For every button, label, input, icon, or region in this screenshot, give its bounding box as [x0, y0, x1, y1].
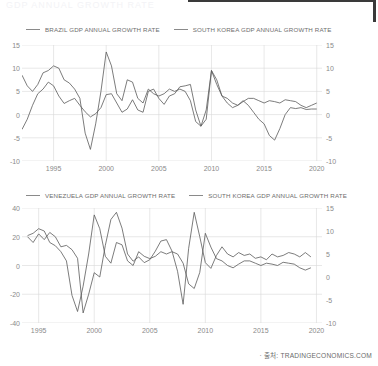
y-tick-label: 15	[326, 42, 334, 49]
y-tick-label: 15	[326, 205, 334, 212]
legend-line-swatch-icon	[174, 29, 188, 30]
x-tick-label: 2000	[98, 165, 114, 172]
legend-label: BRAZIL GDP ANNUAL GROWTH RATE	[45, 26, 160, 33]
y-tick-label: 10	[12, 65, 20, 72]
x-tick-label: 2005	[151, 165, 167, 172]
data-series-line-1	[22, 52, 317, 149]
x-tick-label: 2015	[256, 165, 272, 172]
legend-item-venezuela[interactable]: VENEZUELA GDP ANNUAL GROWTH RATE	[26, 192, 175, 199]
x-tick-label: 2020	[309, 165, 325, 172]
legend-label: SOUTH KOREA GDP ANNUAL GROWTH RATE	[193, 26, 332, 33]
chart-2-y-axis-left: 40200-20-40	[0, 208, 20, 323]
y-tick-label: -5	[326, 297, 332, 304]
legend-line-swatch-icon	[189, 195, 203, 196]
x-tick-label: 1995	[31, 327, 47, 334]
y-tick-label: 0	[326, 274, 330, 281]
legend-line-swatch-icon	[26, 195, 40, 196]
y-tick-label: 10	[326, 228, 334, 235]
x-tick-label: 2010	[204, 165, 220, 172]
chart-panel-venezuela-south-korea: VENEZUELA GDP ANNUAL GROWTH RATE SOUTH K…	[0, 188, 378, 348]
x-tick-label: 2000	[86, 327, 102, 334]
data-series-line-1	[28, 215, 311, 312]
legend-item-south-korea[interactable]: SOUTH KOREA GDP ANNUAL GROWTH RATE	[174, 26, 332, 33]
chart-panel-brazil-south-korea: BRAZIL GDP ANNUAL GROWTH RATE SOUTH KORE…	[0, 22, 378, 184]
y-tick-label: -10	[10, 158, 20, 165]
chart-1-x-axis: 199520002005201020152020	[22, 165, 322, 177]
legend-label: VENEZUELA GDP ANNUAL GROWTH RATE	[45, 192, 175, 199]
chart-1-legend: BRAZIL GDP ANNUAL GROWTH RATE SOUTH KORE…	[0, 22, 378, 36]
chart-1-y-axis-right: 151050-5-10	[326, 45, 350, 161]
legend-item-south-korea[interactable]: SOUTH KOREA GDP ANNUAL GROWTH RATE	[189, 192, 347, 199]
source-attribution: · 출처: TRADINGECONOMICS.COM	[0, 350, 378, 364]
y-tick-label: -10	[326, 158, 336, 165]
chart-2-legend: VENEZUELA GDP ANNUAL GROWTH RATE SOUTH K…	[0, 188, 378, 202]
chart-2-x-axis: 199520002005201020152020	[22, 327, 322, 339]
x-tick-label: 1995	[46, 165, 62, 172]
chart-1-y-axis-left: 151050-5-10	[0, 45, 20, 161]
y-tick-label: -5	[326, 134, 332, 141]
y-tick-label: -20	[10, 291, 20, 298]
cropped-window-frame	[188, 0, 376, 22]
x-tick-label: 2020	[309, 327, 325, 334]
data-series-line-0	[28, 212, 311, 313]
legend-line-swatch-icon	[26, 29, 40, 30]
y-tick-label: 20	[12, 233, 20, 240]
y-tick-label: 0	[16, 262, 20, 269]
y-tick-label: -40	[10, 320, 20, 327]
y-tick-label: -5	[14, 134, 20, 141]
chart-2-plot-area[interactable]	[22, 208, 322, 323]
y-tick-label: 40	[12, 205, 20, 212]
y-tick-label: 0	[16, 111, 20, 118]
y-tick-label: 15	[12, 42, 20, 49]
x-tick-label: 2015	[253, 327, 269, 334]
y-tick-label: 5	[326, 88, 330, 95]
y-tick-label: 0	[326, 111, 330, 118]
legend-item-brazil[interactable]: BRAZIL GDP ANNUAL GROWTH RATE	[26, 26, 160, 33]
y-tick-label: -10	[326, 320, 336, 327]
x-tick-label: 2010	[198, 327, 214, 334]
chart-1-plot-area[interactable]	[22, 45, 322, 161]
legend-label: SOUTH KOREA GDP ANNUAL GROWTH RATE	[208, 192, 347, 199]
chart-2-y-axis-right: 151050-5-10	[326, 208, 350, 323]
y-tick-label: 5	[16, 88, 20, 95]
x-tick-label: 2005	[142, 327, 158, 334]
y-tick-label: 5	[326, 251, 330, 258]
y-tick-label: 10	[326, 65, 334, 72]
